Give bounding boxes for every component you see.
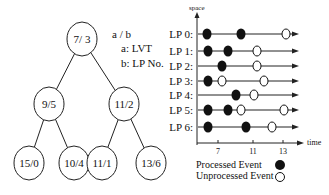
processed-event [204, 122, 213, 133]
tree-edge [56, 53, 75, 89]
tree-node: 15/0 [14, 146, 44, 180]
unprocessed-event [218, 76, 226, 86]
unprocessed-event [237, 105, 245, 115]
processed-event [224, 46, 233, 57]
timeline-arrow-icon [292, 108, 299, 113]
node-label: 7/ 3 [74, 33, 91, 45]
x-axis-arrow-icon [297, 141, 304, 146]
y-axis-arrow-icon [195, 12, 200, 18]
lp-row: LP 5: [169, 104, 299, 116]
timeline-arrow-icon [292, 49, 299, 54]
unprocessed-event [253, 46, 261, 56]
timeline-arrow-icon [292, 64, 299, 69]
legend-format: a / b [112, 28, 131, 40]
lp-label: LP 5: [169, 104, 193, 116]
lp-row: LP 6: [169, 121, 299, 133]
unprocessed-event [280, 105, 288, 115]
tree-node: 13/6 [136, 146, 166, 180]
tree-edge [131, 119, 145, 149]
tree-edge [91, 52, 116, 90]
lp-label: LP 3: [169, 75, 193, 87]
lp-label: LP 0: [169, 28, 193, 40]
unprocessed-event [268, 122, 276, 132]
lp-rows: LP 0:LP 1:LP 2:LP 3:LP 4:LP 5:LP 6: [169, 28, 299, 133]
tree-edge [108, 119, 119, 148]
x-tick-label: 7 [216, 147, 220, 156]
tree-node: 9/5 [34, 87, 64, 121]
diagram: 7/ 39/511/215/010/411/113/6 a / b a: LVT… [0, 0, 329, 195]
node-label: 10/4 [64, 157, 84, 169]
processed-event [218, 61, 227, 72]
lp-row: LP 0: [169, 28, 299, 40]
unprocessed-event-icon [276, 173, 285, 182]
x-ticks: 71113 [216, 140, 287, 156]
lp-row: LP 4: [169, 89, 299, 101]
lp-row: LP 1: [169, 45, 299, 57]
tree-node: 10/4 [59, 146, 89, 180]
lp-row: LP 3: [169, 75, 299, 87]
timeline: space time 71113 LP 0:LP 1:LP 2:LP 3:LP … [169, 4, 321, 156]
lp-label: LP 4: [169, 89, 193, 101]
tree-edge [55, 119, 68, 149]
unprocessed-event [282, 29, 290, 39]
tree-node: 11/2 [109, 87, 139, 121]
tree-node: 11/1 [87, 146, 117, 180]
legend-b: b: LP No. [121, 57, 164, 69]
y-axis-label: space [189, 4, 205, 12]
event-legend: Processed Event Unprocessed Event [196, 159, 285, 182]
legend-a: a: LVT [121, 42, 152, 54]
unprocessed-event [250, 90, 258, 100]
node-label: 15/0 [19, 157, 39, 169]
processed-event [224, 105, 233, 116]
timeline-arrow-icon [292, 32, 299, 37]
processed-event [204, 105, 213, 116]
x-tick-label: 13 [279, 147, 287, 156]
x-tick-label: 11 [249, 147, 257, 156]
timeline-arrow-icon [292, 125, 299, 130]
processed-event [203, 29, 212, 40]
processed-event [242, 122, 251, 133]
node-label: 9/5 [42, 98, 57, 110]
lp-label: LP 1: [169, 45, 193, 57]
node-label: 11/1 [92, 157, 111, 169]
processed-event [237, 29, 246, 40]
unprocessed-event [253, 61, 261, 71]
legend-unprocessed-label: Unprocessed Event [196, 170, 274, 181]
node-label: 13/6 [141, 157, 161, 169]
node-label: 11/2 [114, 98, 133, 110]
tree-node: 7/ 3 [67, 22, 97, 56]
lp-label: LP 6: [169, 121, 193, 133]
timeline-arrow-icon [292, 93, 299, 98]
processed-event [204, 46, 213, 57]
x-axis-label: time [307, 138, 322, 147]
processed-event [232, 90, 241, 101]
processed-event-icon [275, 160, 285, 170]
lp-row: LP 2: [169, 60, 299, 72]
processed-event [204, 76, 213, 87]
legend-processed-label: Processed Event [196, 159, 262, 170]
timeline-arrow-icon [292, 79, 299, 84]
lp-label: LP 2: [169, 60, 193, 72]
unprocessed-event [260, 76, 268, 86]
tree-legend: a / b a: LVT b: LP No. [112, 28, 164, 69]
tree-edge [34, 119, 44, 148]
